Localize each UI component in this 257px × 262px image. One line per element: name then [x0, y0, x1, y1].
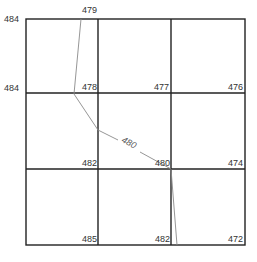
label-contour-top: 479 [82, 5, 97, 15]
label-row1-left: 484 [4, 83, 19, 93]
grid [26, 19, 245, 245]
label-row3-col3: 472 [228, 234, 243, 244]
label-row2-col3: 474 [228, 158, 243, 168]
contour-grid-diagram: 480 484 479 484 478 477 476 482 480 474 … [0, 0, 257, 262]
label-row3-col1: 485 [82, 234, 97, 244]
contour-segment-a [74, 19, 118, 140]
label-row1-col2: 477 [154, 82, 169, 92]
label-row2-col1: 482 [82, 158, 97, 168]
label-row2-col2: 480 [155, 158, 170, 168]
label-row1-col3: 476 [228, 82, 243, 92]
label-row1-col1: 478 [82, 82, 97, 92]
node-labels: 484 479 484 478 477 476 482 480 474 485 … [4, 5, 243, 244]
contour-label: 480 [120, 135, 138, 151]
label-row3-col2: 482 [155, 234, 170, 244]
grid-border [26, 19, 245, 245]
label-top-left: 484 [4, 14, 19, 24]
contour-480: 480 [74, 19, 177, 245]
